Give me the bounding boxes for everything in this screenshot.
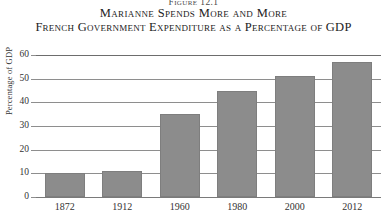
x-tick-label: 2012 [324,201,382,213]
x-axis-labels: 187219121960198020002012 [36,201,381,219]
bar [217,91,257,198]
y-tick-label: 60 [20,50,30,60]
plot-area [36,55,381,197]
figure-titles: Figure 12.1 Marianne Spends More and Mor… [0,0,387,34]
bar-series [36,55,381,197]
figure-title: Marianne Spends More and More [0,6,387,20]
x-tick-label: 1872 [36,201,94,213]
y-tick-label: 20 [20,145,30,155]
y-tick-label: 50 [20,74,30,84]
bar [102,171,142,197]
y-axis-ticks: 0102030405060 [0,55,36,197]
bar [275,76,315,197]
bar [332,62,372,197]
figure-subtitle: French Government Expenditure as a Perce… [0,20,387,34]
x-axis-line [36,197,381,198]
x-tick-label: 1980 [209,201,267,213]
bar [160,114,200,197]
x-tick-label: 2000 [266,201,324,213]
y-tick-label: 30 [20,121,30,131]
figure-container: Figure 12.1 Marianne Spends More and Mor… [0,0,387,224]
x-tick-label: 1912 [94,201,152,213]
y-tick-label: 40 [20,98,30,108]
x-tick-label: 1960 [151,201,209,213]
y-tick-label: 10 [20,169,30,179]
bar [45,173,85,197]
y-tick-label: 0 [24,192,29,202]
